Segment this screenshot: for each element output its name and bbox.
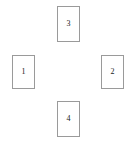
node-box-3[interactable]: 3 (57, 6, 80, 42)
node-box-1[interactable]: 1 (12, 55, 35, 89)
node-label-1: 1 (22, 68, 26, 76)
node-label-2: 2 (111, 68, 115, 76)
node-box-2[interactable]: 2 (101, 55, 124, 89)
node-label-3: 3 (67, 20, 71, 28)
node-label-4: 4 (67, 115, 71, 123)
diagram-canvas: 3 1 2 4 (0, 0, 136, 143)
node-box-4[interactable]: 4 (57, 101, 80, 137)
